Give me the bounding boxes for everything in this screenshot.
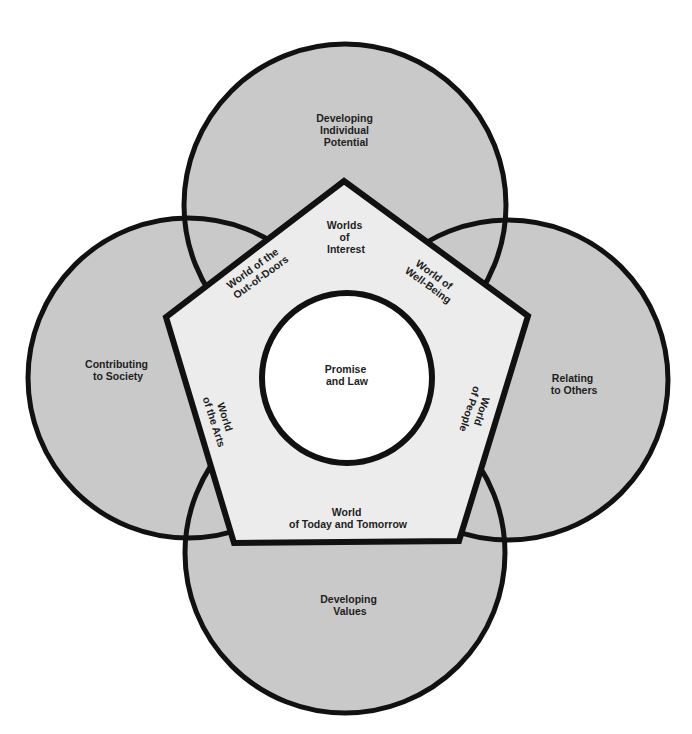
label-promise-and-law: Promise and Law <box>325 363 369 387</box>
diagram-canvas: Developing Individual Potential Contribu… <box>0 0 692 734</box>
label-developing-individual-potential: Developing Individual Potential <box>316 112 376 148</box>
label-contributing-to-society: Contributing to Society <box>85 358 151 382</box>
label-relating-to-others: Relating to Others <box>551 372 598 396</box>
